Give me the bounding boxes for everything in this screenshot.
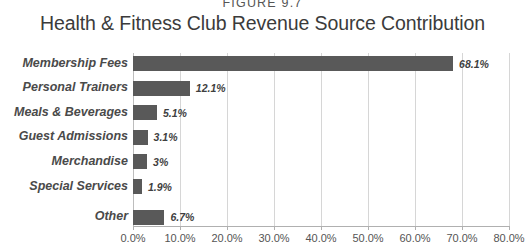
- gridline: [509, 53, 510, 226]
- category-label: Special Services: [0, 179, 128, 193]
- bar: [133, 105, 157, 120]
- plot-area: 68.1%12.1%5.1%3.1%3%1.9%6.7%: [133, 53, 509, 226]
- category-label: Other: [0, 209, 128, 223]
- bar: [133, 130, 148, 145]
- tickmark: [368, 226, 369, 230]
- x-axis-tick-label: 80.0%: [474, 232, 525, 244]
- figure-number-label: FIGURE 9.7: [0, 0, 525, 10]
- bar-row: 12.1%: [133, 81, 509, 96]
- bar-value-label: 3.1%: [154, 131, 178, 143]
- category-label: Membership Fees: [0, 56, 128, 70]
- chart-title: Health & Fitness Club Revenue Source Con…: [0, 12, 525, 35]
- bar-value-label: 3%: [153, 156, 168, 168]
- bar-row: 1.9%: [133, 179, 509, 194]
- category-label: Merchandise: [0, 154, 128, 168]
- bar-row: 68.1%: [133, 56, 509, 71]
- bar-value-label: 68.1%: [459, 58, 489, 70]
- tickmark: [321, 226, 322, 230]
- bar: [133, 154, 147, 169]
- figure-container: FIGURE 9.7 Health & Fitness Club Revenue…: [0, 0, 525, 250]
- bar-row: 6.7%: [133, 210, 509, 225]
- bar-value-label: 6.7%: [170, 211, 194, 223]
- category-label: Personal Trainers: [0, 80, 128, 94]
- tickmark: [227, 226, 228, 230]
- tickmark: [274, 226, 275, 230]
- bar: [133, 56, 453, 71]
- tickmark: [180, 226, 181, 230]
- category-label: Guest Admissions: [0, 129, 128, 143]
- tickmark: [133, 226, 134, 230]
- tickmark: [415, 226, 416, 230]
- bar: [133, 179, 142, 194]
- category-label: Meals & Beverages: [0, 105, 128, 119]
- bar: [133, 81, 190, 96]
- tickmark: [462, 226, 463, 230]
- bar-value-label: 1.9%: [148, 181, 172, 193]
- tickmark: [509, 226, 510, 230]
- bar: [133, 210, 164, 225]
- bar-value-label: 12.1%: [196, 82, 226, 94]
- bar-row: 5.1%: [133, 105, 509, 120]
- bar-row: 3%: [133, 154, 509, 169]
- bar-row: 3.1%: [133, 130, 509, 145]
- bar-value-label: 5.1%: [163, 107, 187, 119]
